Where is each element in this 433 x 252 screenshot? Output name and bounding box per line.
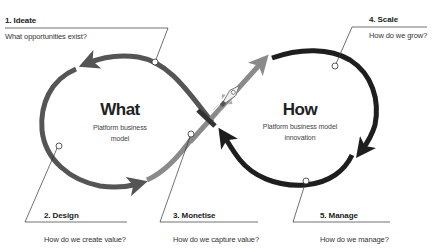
step-monetise-title: 3. Monetise bbox=[173, 211, 215, 220]
step-ideate-question: What opportunities exist? bbox=[5, 32, 87, 41]
step-design-title: 2. Design bbox=[44, 211, 79, 220]
right-loop-bottom-arc bbox=[224, 136, 352, 185]
node-ideate bbox=[152, 59, 158, 65]
node-manage bbox=[303, 178, 309, 184]
step-scale-question: How do we grow? bbox=[369, 31, 427, 40]
step-monetise-question: How do we capture value? bbox=[173, 235, 259, 244]
right-center-subtitle-line2: innovation bbox=[250, 132, 350, 143]
right-center-subtitle: Platform business model innovation bbox=[250, 121, 350, 143]
left-center-subtitle: Platform business model bbox=[80, 122, 160, 144]
left-center-subtitle-line1: Platform business bbox=[80, 122, 160, 133]
left-loop-rising-segment bbox=[147, 138, 192, 180]
right-center-subtitle-line1: Platform business model bbox=[250, 121, 350, 132]
step-scale-title: 4. Scale bbox=[369, 15, 398, 24]
left-center-title: What bbox=[90, 100, 150, 120]
step-manage-title: 5. Manage bbox=[320, 211, 358, 220]
leader-line-monetise bbox=[160, 134, 258, 222]
step-ideate-title: 1. Ideate bbox=[5, 16, 36, 25]
step-design-question: How do we create value? bbox=[44, 235, 126, 244]
right-center-title: How bbox=[270, 100, 330, 120]
node-monetise bbox=[188, 131, 194, 137]
left-center-subtitle-line2: model bbox=[80, 133, 160, 144]
node-scale bbox=[332, 63, 338, 69]
step-manage-question: How do we manage? bbox=[320, 235, 389, 244]
node-design bbox=[56, 143, 62, 149]
